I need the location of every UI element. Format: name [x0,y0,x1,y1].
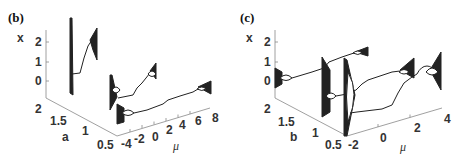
panel-label-b: (b) [8,10,24,26]
x-axis-label-c: μ [400,141,406,153]
x-tick-b-2: 2 [166,124,173,136]
branch-a1 [110,63,156,110]
y-tick-b-1.5: 1.5 [50,115,67,127]
z-tick-c-2: 2 [264,36,271,48]
branch-b1 [322,57,414,117]
z-tick-c-0: 0 [264,75,271,87]
y-tick-c-0.5: 0.5 [325,139,342,151]
y-tick-c-1.5: 1.5 [278,116,295,128]
panel-b: (b) x 2 1 0 2 1.5 a 1 0.5 -4 -2 0 2 4 6 … [0,0,232,158]
y-tick-c-1: 1 [312,127,319,139]
x-tick-b-neg2: -2 [134,133,145,145]
z-axis-label-c: x [246,32,253,44]
x-tick-c-2: 2 [414,122,421,134]
y-axis-label-b: a [62,131,69,143]
z-tick-c-1: 1 [264,56,271,68]
branch-a2 [70,18,97,95]
x-tick-c-0: 0 [380,132,387,144]
z-axis-label-b: x [17,32,24,44]
x-tick-b-neg4: -4 [121,138,132,150]
z-tick-b-1: 1 [35,56,42,68]
y-tick-b-1: 1 [82,125,89,137]
x-tick-c-neg2: -2 [348,139,359,151]
x-tick-b-4: 4 [179,119,186,131]
panel-c: (c) x 2 1 0 2 1.5 b 1 0.5 -2 0 2 4 μ [232,0,464,158]
x-tick-b-8: 8 [212,112,219,124]
x-tick-b-6: 6 [195,115,202,127]
z-tick-b-2: 2 [35,36,42,48]
y-tick-b-0.5: 0.5 [97,139,114,151]
x-tick-c-4: 4 [444,113,451,125]
y-tick-b-2: 2 [35,103,42,115]
y-tick-c-2: 2 [264,103,271,115]
panel-label-c: (c) [240,10,254,26]
x-axis-label-b: μ [173,140,179,152]
z-tick-b-0: 0 [35,75,42,87]
x-tick-b-0: 0 [152,131,159,143]
branch-b0.5 [344,52,441,136]
y-axis-label-c: b [290,131,297,143]
